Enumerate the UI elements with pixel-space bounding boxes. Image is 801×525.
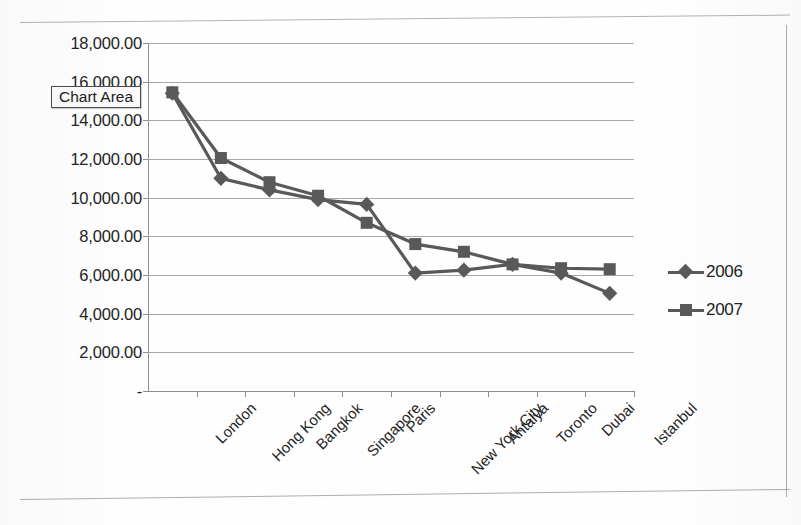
legend-item-2007[interactable]: 2007 (668, 291, 778, 329)
x-axis-tick-labels: LondonHong KongBangkokSingaporeParisNew … (148, 394, 634, 489)
x-axis-tick (634, 391, 635, 397)
x-axis-tick-label: London (213, 400, 259, 446)
y-axis-tick-label: 12,000.00 (10, 151, 142, 168)
square-marker-icon[interactable] (507, 258, 519, 270)
square-marker-icon[interactable] (215, 152, 227, 164)
legend-item-2006[interactable]: 2006 (668, 253, 778, 291)
square-marker-icon[interactable] (312, 190, 324, 202)
legend-item-label: 2006 (706, 262, 743, 282)
page-frame-bottom-border (20, 489, 790, 500)
scanned-page: 18,000.0016,000.0014,000.0012,000.0010,0… (0, 0, 801, 525)
square-marker-icon[interactable] (604, 263, 616, 275)
square-marker-icon[interactable] (458, 246, 470, 258)
chart-area-tooltip: Chart Area (51, 86, 141, 108)
y-axis-tick-label: - (10, 383, 142, 400)
x-axis-tick-label: Toronto (553, 400, 599, 446)
y-axis-tick-label: 18,000.00 (10, 35, 142, 52)
series-line-2006[interactable] (172, 93, 609, 293)
diamond-marker-icon[interactable] (456, 263, 471, 278)
line-chart[interactable]: 18,000.0016,000.0014,000.0012,000.0010,0… (0, 28, 790, 490)
square-marker-icon[interactable] (166, 86, 178, 98)
square-marker-icon[interactable] (361, 217, 373, 229)
diamond-marker-icon[interactable] (602, 286, 617, 301)
y-axis-tick-label: 6,000.00 (10, 267, 142, 284)
y-axis-tick-label: 10,000.00 (10, 190, 142, 207)
square-marker-icon (668, 301, 704, 319)
legend-item-label: 2007 (706, 300, 743, 320)
diamond-marker-icon (668, 263, 704, 281)
y-axis-tick-label: 2,000.00 (10, 344, 142, 361)
x-axis-tick-label: Istanbul (651, 400, 699, 448)
x-axis-tick-label: Dubai (599, 400, 637, 438)
square-marker-icon[interactable] (555, 262, 567, 274)
y-axis-tick-label: 4,000.00 (10, 306, 142, 323)
y-axis-tick-label: 8,000.00 (10, 228, 142, 245)
page-frame-top-border (20, 15, 790, 23)
data-series-layer (148, 43, 634, 392)
y-axis-tick-label: 14,000.00 (10, 112, 142, 129)
diamond-marker-icon[interactable] (213, 171, 228, 186)
chart-legend[interactable]: 20062007 (668, 253, 778, 329)
square-marker-icon[interactable] (409, 238, 421, 250)
square-marker-icon[interactable] (264, 176, 276, 188)
